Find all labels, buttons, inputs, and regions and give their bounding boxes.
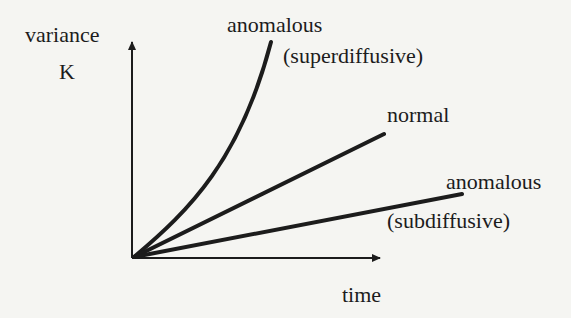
diffusion-diagram: variance K time anomalous (superdiffusiv… (0, 0, 571, 318)
subdiffusive-sublabel: (subdiffusive) (387, 210, 510, 232)
y-axis-label: variance (25, 24, 100, 46)
superdiffusive-label: anomalous (227, 14, 322, 36)
y-axis-symbol: K (59, 61, 75, 83)
x-axis-label: time (342, 284, 381, 306)
superdiffusive-sublabel: (superdiffusive) (283, 45, 423, 67)
normal-line (134, 134, 384, 257)
normal-label: normal (387, 104, 449, 126)
subdiffusive-label: anomalous (446, 171, 541, 193)
